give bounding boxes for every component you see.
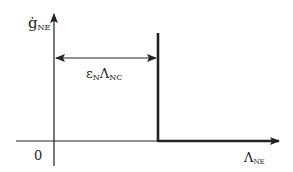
diagram-canvas: ġNE εNΛNC 0 ΛNE xyxy=(0,0,293,172)
span-label: εNΛNC xyxy=(86,66,122,82)
y-axis-label: ġNE xyxy=(28,14,51,32)
origin-label: 0 xyxy=(34,148,42,163)
x-axis-label: ΛNE xyxy=(243,150,265,166)
